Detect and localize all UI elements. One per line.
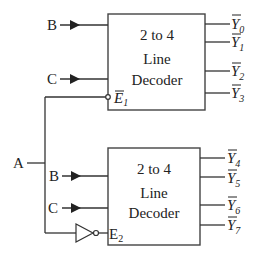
decoder-bottom-title: 2 to 4 <box>137 161 172 177</box>
decoder-top-title: 2 to 4 <box>140 27 175 43</box>
inversion-bubble-icon <box>106 95 111 100</box>
arrow-icon <box>70 20 80 30</box>
input-b-top-label: B <box>47 17 57 33</box>
output-y0: Y0 <box>231 16 244 35</box>
output-y7: Y7 <box>227 217 241 236</box>
arrow-icon <box>70 74 80 84</box>
decoder-top-line: Line <box>143 51 171 67</box>
decoder-top-decoder: Decoder <box>132 72 183 88</box>
decoder-bottom-outputs: Y4 Y5 Y6 Y7 <box>200 150 241 236</box>
decoder-diagram: 2 to 4 Line Decoder B C E1 Y0 Y1 Y2 Y3 A… <box>0 0 257 256</box>
arrow-icon <box>71 203 81 213</box>
output-y6: Y6 <box>227 197 240 216</box>
output-y3: Y3 <box>231 85 244 104</box>
input-a-label: A <box>13 155 24 171</box>
input-c-bottom-label: C <box>48 200 58 216</box>
input-c-top-label: C <box>47 71 57 87</box>
output-y2: Y2 <box>231 63 244 82</box>
arrow-icon <box>71 171 81 181</box>
decoder-bottom-decoder: Decoder <box>129 205 180 221</box>
output-y4: Y4 <box>227 150 240 169</box>
inverter-icon <box>76 224 93 242</box>
input-b-bottom-label: B <box>49 168 59 184</box>
output-y1: Y1 <box>231 34 244 53</box>
inversion-bubble-icon <box>94 231 99 236</box>
decoder-bottom-line: Line <box>140 185 168 201</box>
output-y5: Y5 <box>227 170 240 189</box>
decoder-top-outputs: Y0 Y1 Y2 Y3 <box>205 15 244 104</box>
